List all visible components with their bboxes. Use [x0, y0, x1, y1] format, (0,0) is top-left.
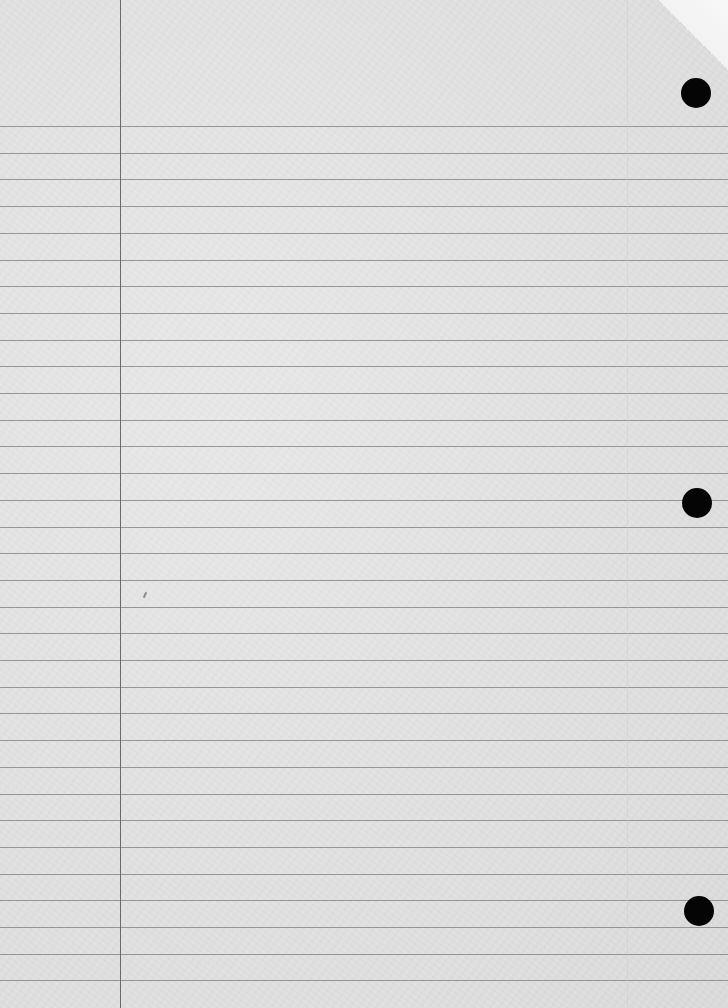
ruled-line	[0, 153, 728, 154]
notebook-paper	[0, 0, 728, 1008]
ruled-line	[0, 286, 728, 287]
punch-hole-middle	[682, 488, 712, 518]
ruled-line	[0, 794, 728, 795]
ruled-line	[0, 633, 728, 634]
ruled-line	[0, 900, 728, 901]
ruled-line	[0, 313, 728, 314]
ruled-line	[0, 820, 728, 821]
ruled-line	[0, 179, 728, 180]
ruled-line	[0, 366, 728, 367]
ruled-line	[0, 527, 728, 528]
punch-hole-bottom	[684, 896, 714, 926]
ruled-line	[0, 607, 728, 608]
corner-highlight	[658, 0, 728, 70]
ruled-line	[0, 553, 728, 554]
ruled-line	[0, 874, 728, 875]
ruled-line	[0, 660, 728, 661]
ruled-line	[0, 500, 728, 501]
ruled-line	[0, 687, 728, 688]
ruled-line	[0, 847, 728, 848]
ruled-line	[0, 126, 728, 127]
right-margin-line	[627, 0, 628, 1008]
ruled-line	[0, 393, 728, 394]
paper-texture	[0, 0, 728, 1008]
ruled-line	[0, 206, 728, 207]
punch-hole-top	[681, 78, 711, 108]
ruled-line	[0, 260, 728, 261]
ruled-line	[0, 420, 728, 421]
ruled-line	[0, 713, 728, 714]
ruled-line	[0, 980, 728, 981]
ruled-line	[0, 954, 728, 955]
ruled-line	[0, 767, 728, 768]
ruled-line	[0, 340, 728, 341]
ruled-line	[0, 740, 728, 741]
ruled-line	[0, 446, 728, 447]
ruled-line	[0, 233, 728, 234]
left-margin-line	[120, 0, 121, 1008]
ruled-line	[0, 927, 728, 928]
ruled-line	[0, 473, 728, 474]
ruled-line	[0, 580, 728, 581]
